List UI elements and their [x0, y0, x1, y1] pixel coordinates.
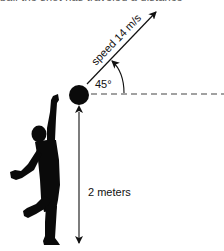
- athlete-silhouette-icon: [10, 94, 60, 245]
- shot-put-diagram: speed 14 m/s 45° 2 meters: [0, 0, 224, 251]
- angle-arc: [112, 61, 124, 93]
- shot-put-ball: [69, 85, 89, 105]
- velocity-label: speed 14 m/s: [89, 11, 144, 67]
- height-label: 2 meters: [88, 186, 131, 198]
- velocity-arrow: [87, 12, 156, 84]
- angle-label: 45°: [95, 78, 112, 90]
